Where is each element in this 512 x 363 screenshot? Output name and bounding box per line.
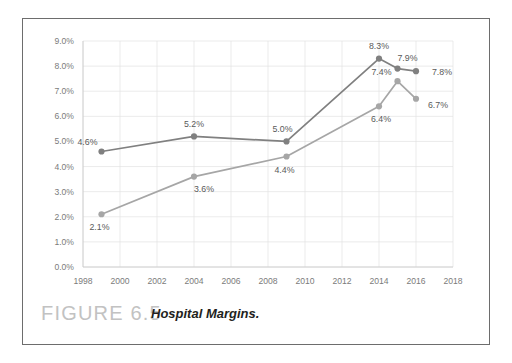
data-point-label: 7.8% xyxy=(432,67,452,77)
x-axis-tick-label: 2016 xyxy=(406,276,425,286)
series-lines-group xyxy=(102,59,417,215)
y-axis-tick-label: 3.0% xyxy=(54,187,74,197)
x-axis-tick-label: 1998 xyxy=(73,276,92,286)
y-axis-tick-label: 2.0% xyxy=(54,212,74,222)
x-axis-tick-label: 2010 xyxy=(295,276,314,286)
data-point-label: 5.0% xyxy=(272,124,292,134)
x-axis-tick-label: 2008 xyxy=(258,276,277,286)
x-axis-tick-label: 2004 xyxy=(184,276,203,286)
y-axis-tick-label: 0.0% xyxy=(54,262,74,272)
x-axis-tick-label: 2014 xyxy=(369,276,388,286)
data-point-label: 5.2% xyxy=(184,119,204,129)
x-axis-tick-labels: 1998200020022004200620082010201220142016… xyxy=(73,276,462,286)
data-point-marker xyxy=(394,66,400,72)
series-markers-group xyxy=(98,55,419,217)
series-line-total-margin xyxy=(102,59,417,152)
data-point-marker xyxy=(191,133,197,139)
data-point-marker xyxy=(376,55,382,61)
series-line-operating-margin xyxy=(102,81,417,214)
data-point-label: 8.3% xyxy=(369,41,389,51)
x-axis-tick-label: 2000 xyxy=(110,276,129,286)
data-point-marker xyxy=(413,68,419,74)
data-point-label: 6.7% xyxy=(428,100,448,110)
y-axis-tick-label: 9.0% xyxy=(54,36,74,46)
data-point-label: 4.6% xyxy=(77,137,97,147)
y-axis-tick-label: 1.0% xyxy=(54,237,74,247)
figure-caption-text: Hospital Margins. xyxy=(151,306,259,321)
data-point-label: 2.1% xyxy=(89,222,109,232)
x-axis-tick-label: 2002 xyxy=(147,276,166,286)
data-point-marker xyxy=(283,138,289,144)
chart-region: 9.0%8.0%7.0%6.0%5.0%4.0%3.0%2.0%1.0%0.0%… xyxy=(23,19,491,291)
data-point-marker xyxy=(98,148,104,154)
y-axis-tick-label: 7.0% xyxy=(54,86,74,96)
figure-number: FIGURE 6.5 xyxy=(41,302,162,325)
data-point-marker xyxy=(376,103,382,109)
data-point-marker xyxy=(283,153,289,159)
data-point-label: 7.4% xyxy=(371,67,391,77)
data-point-label: 4.4% xyxy=(274,165,294,175)
data-point-label: 6.4% xyxy=(371,114,391,124)
data-point-marker xyxy=(394,78,400,84)
data-point-marker xyxy=(413,96,419,102)
data-point-label: 7.9% xyxy=(397,53,417,63)
x-axis-tick-label: 2018 xyxy=(443,276,462,286)
y-axis-tick-label: 8.0% xyxy=(54,61,74,71)
figure-frame: 9.0%8.0%7.0%6.0%5.0%4.0%3.0%2.0%1.0%0.0%… xyxy=(22,18,490,345)
y-axis-tick-label: 5.0% xyxy=(54,136,74,146)
x-axis-tick-label: 2006 xyxy=(221,276,240,286)
data-point-label: 3.6% xyxy=(194,184,214,194)
y-axis-tick-label: 6.0% xyxy=(54,111,74,121)
y-axis-tick-labels: 9.0%8.0%7.0%6.0%5.0%4.0%3.0%2.0%1.0%0.0% xyxy=(54,36,74,272)
gridlines-group xyxy=(83,41,453,267)
data-point-marker xyxy=(191,174,197,180)
hospital-margins-line-chart: 9.0%8.0%7.0%6.0%5.0%4.0%3.0%2.0%1.0%0.0%… xyxy=(23,19,491,291)
x-axis-tick-label: 2012 xyxy=(332,276,351,286)
figure-caption-region: FIGURE 6.5 Hospital Margins. xyxy=(23,292,491,344)
y-axis-tick-label: 4.0% xyxy=(54,162,74,172)
data-point-marker xyxy=(98,211,104,217)
